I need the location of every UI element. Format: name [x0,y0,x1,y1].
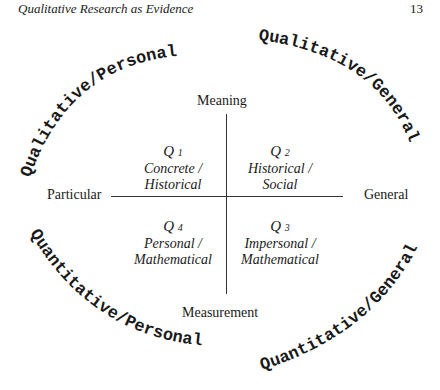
quadrant-q1: Q 1 Concrete / Historical [118,143,228,193]
quadrant-line2: Historical [118,177,228,193]
quadrant-q-letter: Q [270,143,281,159]
axis-label-particular: Particular [47,187,101,203]
quadrant-line2: Mathematical [225,252,335,268]
quadrant-line1: Personal / [118,236,228,252]
axis-label-general: General [364,187,408,203]
arc-label-qualitative-general: Qualitative/General [258,26,423,145]
quadrant-q-letter: Q [270,218,281,234]
axis-label-meaning: Meaning [197,93,247,109]
quadrant-number: 2 [285,147,290,158]
quadrant-number: 4 [178,222,183,233]
quadrant-line1: Concrete / [118,161,228,177]
quadrant-line1: Historical / [225,161,335,177]
quadrant-line2: Mathematical [118,252,228,268]
quadrant-q4: Q 4 Personal / Mathematical [118,218,228,268]
quadrant-number: 3 [285,222,290,233]
quadrant-line2: Social [225,177,335,193]
horizontal-axis-line [111,196,343,197]
quadrant-q-letter: Q [163,143,174,159]
quadrant-number: 1 [178,147,183,158]
axis-label-measurement: Measurement [182,305,258,321]
quadrant-q-letter: Q [163,218,174,234]
quadrant-q3: Q 3 Impersonal / Mathematical [225,218,335,268]
quadrant-line1: Impersonal / [225,236,335,252]
quadrant-q2: Q 2 Historical / Social [225,143,335,193]
